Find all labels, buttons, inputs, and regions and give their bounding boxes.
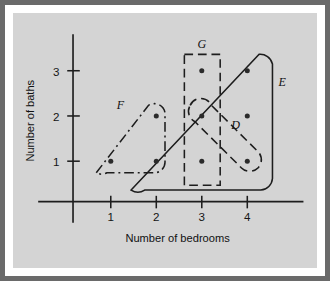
cluster-region-E: [131, 54, 272, 192]
x-tick-label-3: 3: [199, 211, 205, 223]
y-tick-group: 1 2 3: [53, 66, 80, 168]
figure-frame: 1 2 3 4 1 2 3 Number of bedrooms Number …: [0, 0, 330, 281]
x-tick-label-4: 4: [244, 211, 251, 223]
data-point: [199, 113, 204, 118]
data-point: [154, 159, 159, 164]
y-tick-label-2: 2: [53, 111, 59, 123]
scatter-plot-svg: 1 2 3 4 1 2 3 Number of bedrooms Number …: [13, 13, 317, 268]
cluster-label-D: D: [230, 118, 240, 132]
cluster-label-G: G: [197, 37, 206, 51]
data-point: [154, 113, 159, 118]
cluster-label-F: F: [116, 98, 125, 112]
data-point: [245, 68, 250, 73]
data-point-group: [108, 68, 250, 163]
x-tick-group: 1 2 3 4: [108, 196, 252, 223]
x-tick-label-2: 2: [153, 211, 159, 223]
cluster-region-G: [184, 54, 220, 185]
cluster-label-E: E: [277, 75, 286, 89]
y-tick-label-3: 3: [53, 66, 59, 78]
data-point: [199, 159, 204, 164]
x-axis-title: Number of bedrooms: [125, 232, 230, 244]
data-point: [245, 159, 250, 164]
data-point: [199, 68, 204, 73]
data-point: [245, 113, 250, 118]
y-tick-label-1: 1: [53, 156, 59, 168]
axes-group: [38, 34, 303, 223]
data-point: [108, 159, 113, 164]
x-tick-label-1: 1: [108, 211, 114, 223]
y-axis-title: Number of baths: [24, 79, 36, 161]
figure-plot-area: 1 2 3 4 1 2 3 Number of bedrooms Number …: [13, 13, 317, 268]
